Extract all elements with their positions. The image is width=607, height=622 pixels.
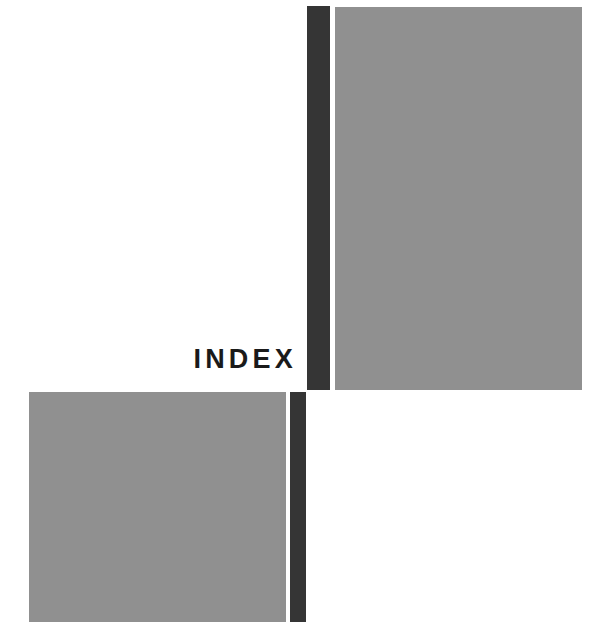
dark-bar-lower: [290, 392, 306, 622]
gray-block-top-right: [335, 7, 582, 390]
page-title: INDEX: [0, 344, 297, 374]
index-divider-page: INDEX: [0, 0, 607, 622]
gray-block-bottom-left: [29, 392, 286, 622]
dark-bar-upper: [307, 6, 330, 390]
